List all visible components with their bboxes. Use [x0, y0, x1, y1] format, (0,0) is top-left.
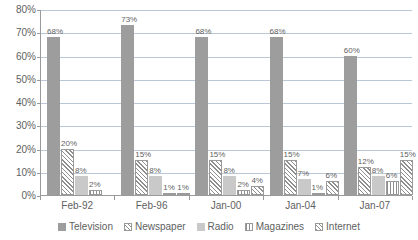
legend-label: Television — [69, 221, 113, 232]
bar-slot-television: 73% — [121, 10, 134, 195]
bar-slot-newspaper: 20% — [61, 10, 74, 195]
bar-slot-newspaper: 15% — [284, 10, 297, 195]
bar-newspaper — [358, 167, 371, 195]
bar-internet — [251, 186, 264, 195]
legend-label: Radio — [208, 221, 234, 232]
bar-slot-newspaper: 12% — [358, 10, 371, 195]
bar-newspaper — [284, 160, 297, 195]
bar-slot-newspaper: 15% — [209, 10, 222, 195]
y-tick-label: 60% — [2, 51, 36, 62]
x-axis-labels: Feb-92Feb-96Jan-00Jan-04Jan-07 — [40, 200, 412, 211]
bar-radio — [223, 176, 236, 195]
y-tick-label: 20% — [2, 144, 36, 155]
legend-swatch-radio-icon — [197, 223, 205, 231]
legend-swatch-television-icon — [58, 223, 66, 231]
bar-chart: 68%20%8%2%73%15%8%1%1%68%15%8%2%4%68%15%… — [0, 0, 418, 240]
bar-internet — [326, 181, 339, 195]
bar-slot-internet: 6% — [326, 10, 339, 195]
legend-item-newspaper: Newspaper — [124, 221, 186, 232]
bar-slot-newspaper: 15% — [135, 10, 148, 195]
bar-slot-internet: 4% — [251, 10, 264, 195]
legend-item-magazines: Magazines — [245, 221, 304, 232]
bar-slot-television: 68% — [195, 10, 208, 195]
bar-slot-television: 68% — [270, 10, 283, 195]
y-tick-label: 40% — [2, 97, 36, 108]
y-tick-label: 30% — [2, 120, 36, 131]
bar-television — [121, 25, 134, 195]
bar-group: 68%15%7%1%6% — [264, 10, 338, 195]
bar-slot-radio: 8% — [223, 10, 236, 195]
x-tick-label: Jan-07 — [338, 200, 412, 211]
bar-magazines — [163, 193, 176, 195]
bar-newspaper — [61, 149, 74, 196]
x-tick-label: Jan-04 — [263, 200, 337, 211]
legend-swatch-newspaper-icon — [124, 223, 132, 231]
bar-newspaper — [209, 160, 222, 195]
bar-radio — [75, 176, 88, 195]
legend-item-television: Television — [58, 221, 113, 232]
bar-groups: 68%20%8%2%73%15%8%1%1%68%15%8%2%4%68%15%… — [41, 10, 412, 195]
bar-slot-internet: 1% — [177, 10, 190, 195]
legend-label: Internet — [326, 221, 360, 232]
bar-slot-magazines: 2% — [89, 10, 102, 195]
x-tick-label: Jan-00 — [189, 200, 263, 211]
bar-value-label: 15% — [400, 150, 418, 159]
bar-slot-radio: 8% — [75, 10, 88, 195]
bar-radio — [149, 176, 162, 195]
bar-group: 73%15%8%1%1% — [115, 10, 189, 195]
bar-slot-magazines: 1% — [163, 10, 176, 195]
bar-slot-magazines: 6% — [386, 10, 399, 195]
bar-slot-internet — [103, 10, 114, 195]
x-tick-label: Feb-92 — [40, 200, 114, 211]
bar-slot-radio: 8% — [372, 10, 385, 195]
y-tick-label: 10% — [2, 167, 36, 178]
legend-item-internet: Internet — [315, 221, 360, 232]
bar-group: 68%20%8%2% — [41, 10, 115, 195]
bar-radio — [298, 179, 311, 195]
bar-television — [47, 37, 60, 195]
legend-swatch-internet-icon — [315, 223, 323, 231]
bar-magazines — [237, 190, 250, 195]
x-tick-label: Feb-96 — [114, 200, 188, 211]
legend-label: Magazines — [256, 221, 304, 232]
y-tick-label: 70% — [2, 27, 36, 38]
bar-magazines — [89, 190, 102, 195]
bar-television — [270, 37, 283, 195]
bar-slot-television: 68% — [47, 10, 60, 195]
bar-slot-internet: 15% — [400, 10, 413, 195]
bar-group: 68%15%8%2%4% — [189, 10, 263, 195]
y-tick-label: 80% — [2, 4, 36, 15]
bar-magazines — [386, 181, 399, 195]
legend-item-radio: Radio — [197, 221, 234, 232]
legend-label: Newspaper — [135, 221, 186, 232]
bar-internet — [400, 160, 413, 195]
bar-slot-magazines: 2% — [237, 10, 250, 195]
plot-area: 68%20%8%2%73%15%8%1%1%68%15%8%2%4%68%15%… — [40, 10, 412, 196]
bar-newspaper — [135, 160, 148, 195]
bar-slot-radio: 7% — [298, 10, 311, 195]
bar-slot-radio: 8% — [149, 10, 162, 195]
bar-magazines — [312, 193, 325, 195]
chart-legend: TelevisionNewspaperRadioMagazinesInterne… — [0, 221, 418, 232]
bar-slot-magazines: 1% — [312, 10, 325, 195]
y-tick-label: 50% — [2, 74, 36, 85]
bar-television — [195, 37, 208, 195]
bar-television — [344, 56, 357, 196]
bar-slot-television: 60% — [344, 10, 357, 195]
x-tick-mark — [412, 196, 413, 200]
bar-internet — [177, 193, 190, 195]
bar-radio — [372, 176, 385, 195]
legend-swatch-magazines-icon — [245, 223, 253, 231]
y-tick-label: 0% — [2, 190, 36, 201]
bar-group: 60%12%8%6%15% — [338, 10, 412, 195]
